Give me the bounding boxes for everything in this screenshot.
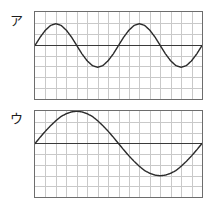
panel-a-plot-box [34,11,203,100]
panel-u-label: ウ [10,112,23,125]
panel-u-plot-box [34,110,203,198]
waveform-figure: ア ウ [0,0,213,207]
panel-u-waveform [35,111,202,197]
panel-a-waveform [35,12,202,99]
panel-a-label: ア [10,14,23,27]
